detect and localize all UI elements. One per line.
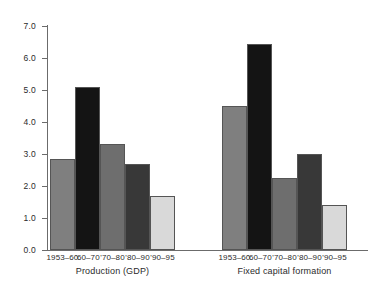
x-axis-tick-label: 1953–60 bbox=[219, 253, 251, 262]
bar bbox=[100, 144, 125, 250]
x-axis-tick-label: '80–90 bbox=[297, 253, 321, 262]
x-axis-tick-label: '60–70 bbox=[75, 253, 99, 262]
x-axis-tick-label: '90–95 bbox=[322, 253, 346, 262]
bar bbox=[247, 44, 272, 250]
bar bbox=[272, 178, 297, 250]
bar bbox=[75, 87, 100, 250]
x-axis-tick-label: '80–90 bbox=[125, 253, 149, 262]
bar bbox=[322, 205, 347, 250]
bar bbox=[50, 159, 75, 250]
bar bbox=[297, 154, 322, 250]
x-axis-tick-label: 1953–60 bbox=[47, 253, 79, 262]
grouped-bar-chart: 0.01.02.03.04.05.06.07.0 1953–60'60–70'7… bbox=[0, 0, 377, 298]
x-axis-tick-label: '70–80 bbox=[100, 253, 124, 262]
group-axis-title: Production (GDP) bbox=[76, 266, 149, 276]
group-axis-title: Fixed capital formation bbox=[238, 266, 332, 276]
x-axis-tick-label: '90–95 bbox=[150, 253, 174, 262]
bar bbox=[125, 164, 150, 250]
bar bbox=[150, 196, 175, 250]
x-axis-tick-label: '60–70 bbox=[247, 253, 271, 262]
x-axis-tick-label: '70–80 bbox=[272, 253, 296, 262]
bar bbox=[222, 106, 247, 250]
